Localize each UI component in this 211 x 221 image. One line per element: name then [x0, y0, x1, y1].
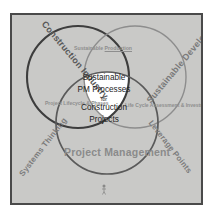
- venn-circles-svg: [12, 15, 201, 203]
- diagram-frame: Construction Industry Sustainable Develo…: [10, 13, 203, 205]
- diagram-root: Construction Industry Sustainable Develo…: [0, 0, 211, 221]
